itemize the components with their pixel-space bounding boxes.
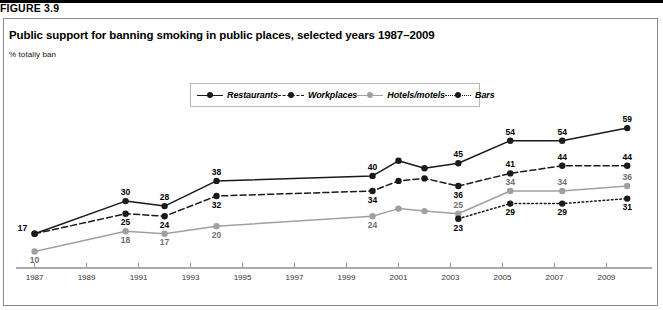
data-point[interactable] [421,165,427,171]
data-label: 18 [121,235,131,245]
data-point[interactable] [455,216,461,222]
data-label: 34 [505,177,515,187]
x-axis-tick-label: 1997 [286,273,304,282]
data-point[interactable] [559,200,565,206]
x-axis-tick-label: 2007 [546,273,564,282]
data-label: 31 [622,202,632,212]
data-label: 25 [121,217,131,227]
x-axis-tick-label: 2009 [598,273,616,282]
data-point[interactable] [421,175,427,181]
data-point[interactable] [624,163,630,169]
data-label: 28 [160,192,170,202]
data-label: 36 [454,190,464,200]
data-label: 30 [121,187,131,197]
data-point[interactable] [395,178,401,184]
data-label: 34 [368,195,378,205]
data-label: 10 [30,255,40,265]
data-label: 41 [505,159,515,169]
data-point[interactable] [213,193,219,199]
data-label: 17 [160,237,170,247]
data-point[interactable] [213,223,219,229]
data-point[interactable] [122,198,128,204]
data-label: 24 [368,220,378,230]
data-label: 29 [505,207,515,217]
data-label: 54 [557,127,567,137]
data-point[interactable] [624,183,630,189]
data-point[interactable] [395,158,401,164]
x-axis-tick-label: 2005 [494,273,512,282]
data-label: 36 [622,172,632,182]
data-point[interactable] [507,170,513,176]
data-label: 23 [454,223,464,233]
data-point[interactable] [369,188,375,194]
x-axis-tick-label: 1991 [130,273,148,282]
data-point[interactable] [122,228,128,234]
data-label: 32 [212,200,222,210]
data-label: 17 [18,223,28,233]
x-axis-tick-label: 1999 [338,273,356,282]
x-axis-tick-label: 2001 [390,273,408,282]
data-label: 40 [368,162,378,172]
data-point[interactable] [369,173,375,179]
data-point[interactable] [161,231,167,237]
data-point[interactable] [421,208,427,214]
x-axis-tick-label: 1995 [234,273,252,282]
data-label: 24 [160,220,170,230]
data-label: 29 [557,207,567,217]
data-point[interactable] [507,188,513,194]
data-label: 20 [212,230,222,240]
data-point[interactable] [624,195,630,201]
data-point[interactable] [122,211,128,217]
data-point[interactable] [559,138,565,144]
data-label: 45 [454,149,464,159]
series-line-bars [458,199,627,219]
data-point[interactable] [395,205,401,211]
figure-container: FIGURE 3.9 Public support for banning sm… [0,0,663,310]
data-label: 59 [622,114,632,124]
data-point[interactable] [369,213,375,219]
data-point[interactable] [31,248,37,254]
data-label: 44 [557,152,567,162]
data-point[interactable] [161,213,167,219]
x-axis-tick-label: 1989 [78,273,96,282]
data-point[interactable] [455,160,461,166]
x-axis-tick-label: 1987 [26,273,44,282]
data-point[interactable] [455,183,461,189]
data-label: 34 [557,177,567,187]
x-axis-tick-label: 1993 [182,273,200,282]
x-axis-tick-label: 2003 [442,273,460,282]
data-point[interactable] [559,163,565,169]
line-chart-svg: 1987198919911993199519971999200120032005… [0,0,655,288]
data-point[interactable] [213,178,219,184]
data-point[interactable] [161,203,167,209]
data-label: 44 [622,152,632,162]
plot-area: 1987198919911993199519971999200120032005… [0,0,655,288]
data-label: 54 [505,127,515,137]
data-point[interactable] [31,231,37,237]
data-point[interactable] [624,125,630,131]
data-point[interactable] [507,138,513,144]
data-point[interactable] [507,200,513,206]
data-point[interactable] [559,188,565,194]
data-label: 25 [454,200,464,210]
data-label: 38 [212,167,222,177]
